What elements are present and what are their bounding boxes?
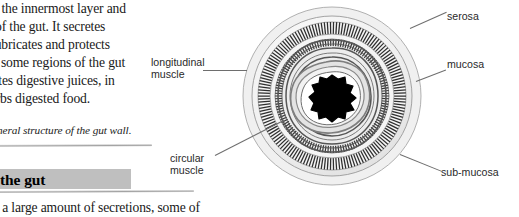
leader-line-longitudinal-muscle	[203, 70, 247, 71]
horizontal-rule-bottom	[0, 189, 194, 193]
figure-caption: eneral structure of the gut wall.	[0, 124, 131, 136]
body-text-continuation: e a large amount of secretions, some of	[0, 200, 200, 216]
label-sub-mucosa: sub-mucosa	[441, 166, 499, 178]
label-mucosa: mucosa	[447, 58, 484, 70]
body-text-line: lubricates and protects	[0, 38, 110, 52]
body-text-line: of the gut. It secretes	[0, 20, 105, 34]
label-longitudinal-muscle: longitudinal muscle	[151, 56, 205, 81]
section-heading-highlight: the gut	[0, 169, 131, 189]
label-circular-muscle: circular muscle	[170, 152, 204, 177]
section-heading: the gut	[0, 170, 45, 189]
gut-cross-section-diagram	[232, 0, 432, 196]
article-text-column: s the innermost layer and of the gut. It…	[0, 0, 180, 217]
horizontal-rule-top	[0, 144, 152, 148]
body-text-line: orbs digested food.	[0, 92, 90, 106]
body-text-line: n some regions of the gut	[0, 56, 125, 70]
body-text-line: retes digestive juices, in	[0, 74, 115, 88]
body-text-line: s the innermost layer and	[0, 2, 126, 16]
label-serosa: serosa	[447, 10, 479, 22]
